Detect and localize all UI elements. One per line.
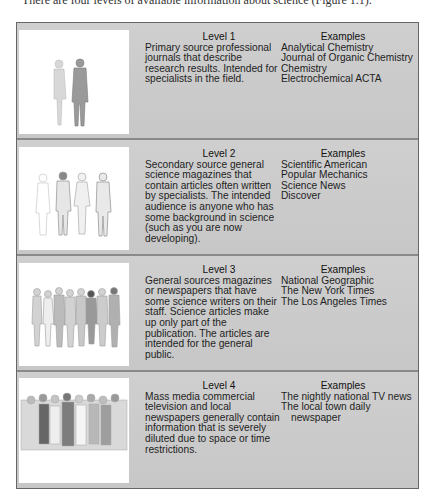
- level-4-examples: Examples The nightly national TV news Th…: [281, 381, 421, 423]
- example-item: Discover: [281, 191, 421, 202]
- people-icon: [19, 378, 129, 483]
- level-2-examples: Examples Scientific American Popular Mec…: [281, 149, 421, 202]
- four-people-illustration: [19, 147, 129, 250]
- people-icon: [19, 147, 129, 250]
- examples-heading: Examples: [281, 32, 405, 43]
- level-3-description: Level 3 General sources magazines or new…: [145, 265, 293, 360]
- level-4-description: Level 4 Mass media commercial television…: [145, 381, 293, 455]
- example-item: The Los Angeles Times: [281, 297, 421, 308]
- levels-figure: Level 1 Primary source professional jour…: [16, 22, 419, 489]
- group-of-people-illustration: [19, 263, 129, 366]
- description-line: audience is anyone who has: [145, 202, 293, 213]
- example-item: Electrochemical ACTA: [281, 74, 421, 85]
- examples-heading: Examples: [281, 381, 405, 392]
- people-icon: [19, 263, 129, 366]
- description-line: public.: [145, 350, 293, 361]
- level-title: Level 2: [145, 149, 293, 160]
- description-line: restrictions.: [145, 445, 293, 456]
- examples-heading: Examples: [281, 149, 405, 160]
- level-1-description: Level 1 Primary source professional jour…: [145, 32, 293, 85]
- description-line: diluted due to space or time: [145, 434, 293, 445]
- examples-heading: Examples: [281, 265, 405, 276]
- level-3-examples: Examples National Geographic The New Yor…: [281, 265, 421, 307]
- level-3-row: Level 3 General sources magazines or new…: [17, 256, 418, 372]
- people-icon: [19, 30, 129, 134]
- level-title: Level 4: [145, 381, 293, 392]
- level-title: Level 3: [145, 265, 293, 276]
- intro-caption: There are four levels of available infor…: [22, 0, 422, 8]
- level-2-description: Level 2 Secondary source general science…: [145, 149, 293, 244]
- example-item: newspaper: [281, 413, 421, 424]
- level-1-examples: Examples Analytical Chemistry Journal of…: [281, 32, 421, 85]
- level-4-row: Level 4 Mass media commercial television…: [17, 372, 418, 488]
- description-line: up only part of the: [145, 318, 293, 329]
- level-1-row: Level 1 Primary source professional jour…: [17, 23, 418, 140]
- description-line: specialists in the field.: [145, 74, 293, 85]
- description-line: developing).: [145, 234, 293, 245]
- two-people-illustration: [19, 30, 129, 134]
- level-2-row: Level 2 Secondary source general science…: [17, 140, 418, 256]
- crowd-illustration: [19, 378, 129, 483]
- level-title: Level 1: [145, 32, 293, 43]
